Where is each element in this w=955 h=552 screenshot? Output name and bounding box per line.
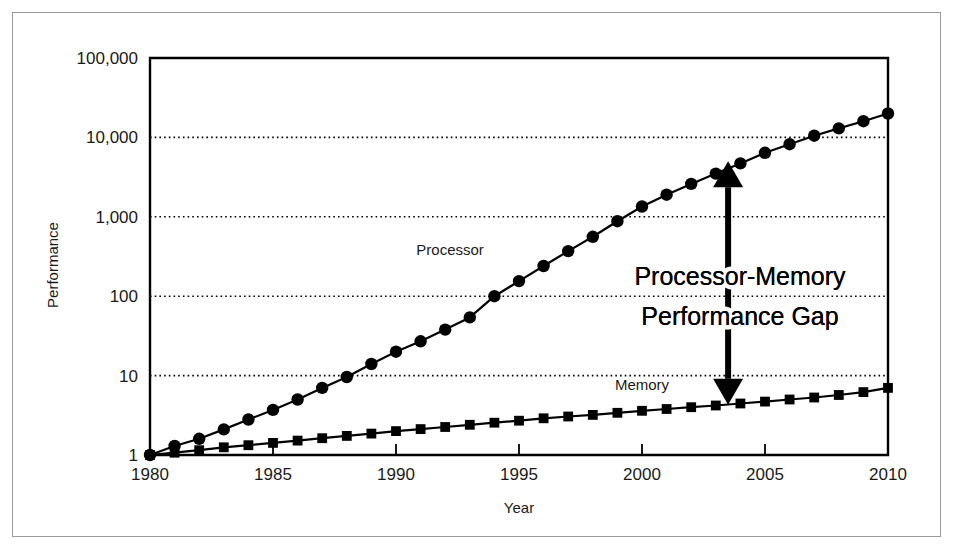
x-tick-label-1980: 1980 bbox=[131, 465, 169, 484]
gap-label-line-2: Performance Gap bbox=[641, 302, 838, 330]
x-tick-label-1985: 1985 bbox=[254, 465, 292, 484]
marker-processor-1986 bbox=[291, 393, 303, 405]
figure-root: 1101001,00010,000100,000 198019851990199… bbox=[0, 0, 955, 552]
marker-memory-2003 bbox=[711, 401, 721, 411]
marker-processor-2001 bbox=[660, 189, 672, 201]
marker-processor-2004 bbox=[734, 157, 746, 169]
marker-memory-2010 bbox=[883, 383, 893, 393]
x-tick-label-2010: 2010 bbox=[869, 465, 907, 484]
marker-memory-1984 bbox=[244, 440, 254, 450]
marker-processor-2008 bbox=[833, 122, 845, 134]
marker-processor-2002 bbox=[685, 178, 697, 190]
marker-processor-1987 bbox=[316, 382, 328, 394]
y-tick-label-1: 1 bbox=[129, 446, 138, 465]
marker-memory-1983 bbox=[219, 442, 229, 452]
marker-processor-1999 bbox=[611, 215, 623, 227]
y-tick-label-100: 100 bbox=[110, 287, 138, 306]
marker-memory-1998 bbox=[588, 410, 598, 420]
marker-memory-2004 bbox=[736, 399, 746, 409]
marker-processor-1991 bbox=[414, 335, 426, 347]
plot-frame bbox=[150, 58, 888, 455]
chart-canvas: 1101001,00010,000100,000 198019851990199… bbox=[0, 0, 955, 552]
marker-processor-1984 bbox=[242, 413, 254, 425]
marker-memory-1980 bbox=[145, 450, 155, 460]
marker-memory-2007 bbox=[809, 393, 819, 403]
y-tick-label-10: 10 bbox=[119, 367, 138, 386]
marker-memory-1993 bbox=[465, 420, 475, 430]
marker-memory-2001 bbox=[662, 404, 672, 414]
marker-memory-1981 bbox=[170, 448, 180, 458]
marker-memory-2008 bbox=[834, 390, 844, 400]
x-tick-label-1995: 1995 bbox=[500, 465, 538, 484]
marker-processor-1983 bbox=[218, 423, 230, 435]
marker-memory-1994 bbox=[490, 418, 500, 428]
x-tick-labels: 1980198519901995200020052010 bbox=[131, 465, 907, 484]
marker-memory-1985 bbox=[268, 438, 278, 448]
series-label-memory: Memory bbox=[615, 376, 670, 393]
marker-memory-1996 bbox=[539, 413, 549, 423]
marker-memory-1989 bbox=[367, 429, 377, 439]
marker-memory-1990 bbox=[391, 426, 401, 436]
marker-processor-1982 bbox=[193, 433, 205, 445]
axes-group bbox=[150, 58, 888, 455]
marker-processor-1988 bbox=[341, 371, 353, 383]
marker-memory-2000 bbox=[637, 406, 647, 416]
marker-processor-1992 bbox=[439, 323, 451, 335]
x-axis-title: Year bbox=[504, 499, 534, 516]
x-tick-marks bbox=[150, 444, 888, 455]
marker-memory-1982 bbox=[194, 445, 204, 455]
marker-memory-2009 bbox=[859, 387, 869, 397]
y-tick-label-100000: 100,000 bbox=[77, 49, 138, 68]
marker-memory-2005 bbox=[760, 397, 770, 407]
marker-memory-1988 bbox=[342, 431, 352, 441]
marker-processor-2010 bbox=[882, 107, 894, 119]
marker-processor-1998 bbox=[587, 231, 599, 243]
y-tick-label-10000: 10,000 bbox=[86, 128, 138, 147]
marker-memory-1987 bbox=[317, 433, 327, 443]
marker-memory-1997 bbox=[563, 412, 573, 422]
marker-processor-1993 bbox=[464, 311, 476, 323]
marker-processor-1990 bbox=[390, 346, 402, 358]
x-tick-label-2000: 2000 bbox=[623, 465, 661, 484]
marker-processor-1996 bbox=[537, 260, 549, 272]
y-tick-label-1000: 1,000 bbox=[95, 208, 138, 227]
marker-processor-1989 bbox=[365, 358, 377, 370]
y-tick-labels: 1101001,00010,000100,000 bbox=[77, 49, 138, 465]
marker-processor-1995 bbox=[513, 275, 525, 287]
marker-memory-2006 bbox=[785, 395, 795, 405]
marker-processor-1997 bbox=[562, 245, 574, 257]
marker-memory-2002 bbox=[686, 402, 696, 412]
marker-processor-2006 bbox=[783, 138, 795, 150]
marker-processor-2005 bbox=[759, 147, 771, 159]
marker-processor-2000 bbox=[636, 200, 648, 212]
marker-memory-1995 bbox=[514, 416, 524, 426]
gridlines-group bbox=[150, 137, 888, 375]
marker-memory-1991 bbox=[416, 424, 426, 434]
x-tick-label-2005: 2005 bbox=[746, 465, 784, 484]
marker-memory-1986 bbox=[293, 436, 303, 446]
gap-label-line-1: Processor-Memory bbox=[634, 262, 846, 290]
series-label-processor: Processor bbox=[416, 241, 484, 258]
y-axis-title: Performance bbox=[44, 222, 61, 308]
marker-processor-2007 bbox=[808, 130, 820, 142]
marker-memory-1999 bbox=[613, 408, 623, 418]
marker-memory-1992 bbox=[440, 422, 450, 432]
marker-processor-1985 bbox=[267, 404, 279, 416]
marker-processor-1994 bbox=[488, 290, 500, 302]
x-tick-label-1990: 1990 bbox=[377, 465, 415, 484]
marker-processor-2009 bbox=[857, 115, 869, 127]
